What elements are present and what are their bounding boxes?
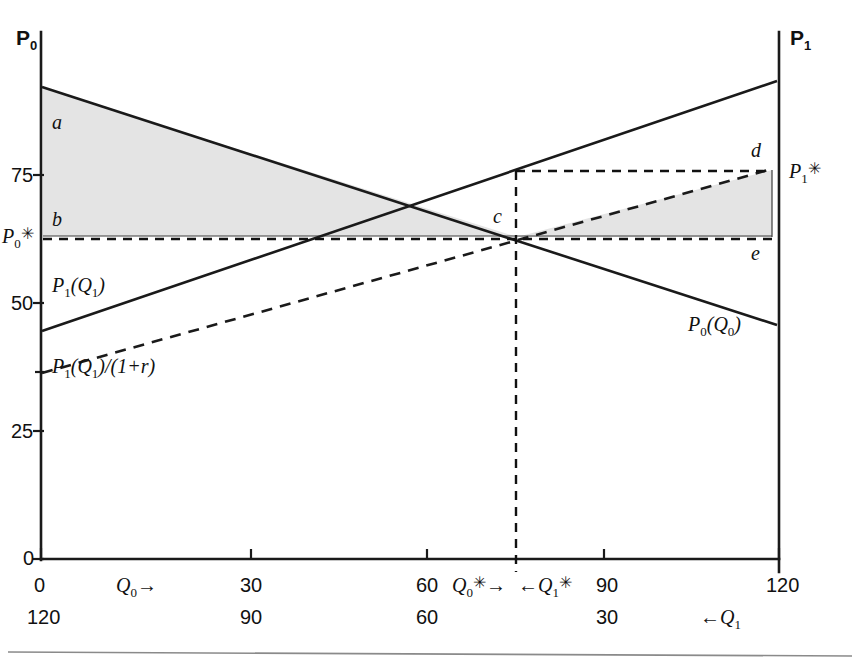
x-tick-label-bottom-120: 120: [27, 607, 60, 627]
right-axis-title: P1: [790, 27, 811, 52]
x-tick-label-bottom-90: 90: [240, 607, 262, 627]
point-label-b: b: [52, 209, 62, 229]
x-tick-label-bottom-60: 60: [416, 607, 438, 627]
x-tick-label-bottom-30: 30: [596, 607, 618, 627]
economics-two-period-price-chart: P0 P1 75 50 25 0 P0✳ P1✳ a b c d e P1(Q1…: [0, 0, 860, 666]
p0-star-axis-label: P0✳: [2, 226, 34, 250]
point-label-d: d: [751, 140, 761, 160]
y-tick-label-25: 25: [11, 421, 33, 441]
x-axis-direction-label-q1: ←Q1: [700, 607, 741, 631]
x-tick-label-top-60: 60: [416, 575, 438, 595]
p1-star-axis-label: P1✳: [789, 161, 821, 185]
y-tick-label-50: 50: [11, 293, 33, 313]
x-tick-label-top-120: 120: [766, 575, 799, 595]
y-tick-label-0: 0: [23, 548, 34, 568]
x-tick-label-top-30: 30: [240, 575, 262, 595]
figure-bottom-rule: [8, 652, 852, 656]
curve-label-p1q1-discounted: P1(Q1)/(1+r): [52, 356, 155, 380]
y-tick-label-75: 75: [11, 165, 33, 185]
x-axis-label-q1-star: ←Q1✳: [518, 575, 572, 599]
x-tick-label-top-90: 90: [596, 575, 618, 595]
x-axis-label-q0-star: Q0✳→: [452, 575, 506, 599]
curve-label-p0q0: P0(Q0): [688, 314, 741, 338]
curve-label-p1q1: P1(Q1): [52, 275, 105, 299]
point-label-c: c: [493, 206, 502, 226]
left-axis-title: P0: [16, 27, 37, 52]
x-axis-direction-label-q0: Q0→: [116, 575, 157, 599]
point-label-a: a: [52, 112, 62, 132]
shaded-region-period1-surplus: [517, 170, 772, 237]
x-tick-label-top-0: 0: [34, 575, 45, 595]
point-label-e: e: [751, 243, 760, 263]
